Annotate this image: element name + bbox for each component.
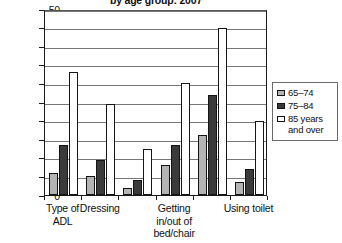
legend-item-label: 75–84 [288, 100, 334, 111]
bar-chart: by age group: 2007 05101520253035404550 … [0, 0, 342, 243]
legend-item-label: 85 yearsand over [288, 113, 334, 135]
bar [235, 182, 244, 195]
x-axis-tick-mark [118, 196, 119, 200]
bar-group [231, 11, 268, 195]
legend-item-label-line2: and over [288, 124, 334, 135]
x-axis-tick-mark [156, 196, 157, 200]
legend-item-label: 65–74 [288, 87, 334, 98]
x-axis-label: Gettingin/out ofbed/chair [143, 202, 205, 240]
bar [69, 72, 78, 195]
bar [123, 188, 132, 195]
bar [59, 145, 68, 195]
bar-group [194, 11, 231, 195]
x-axis-label-line: in/out of [143, 215, 205, 228]
chart-legend: 65–7475–8485 yearsand over [272, 82, 338, 141]
x-axis-tick-mark [81, 196, 82, 200]
bar [133, 180, 142, 195]
bar-group [119, 11, 156, 195]
x-axis-label: Dressing [69, 202, 131, 215]
bar-group [157, 11, 194, 195]
bar [86, 176, 95, 195]
legend-item[interactable]: 85 yearsand over [277, 113, 334, 135]
x-axis-label-line: ADL [32, 215, 94, 228]
bar [171, 145, 180, 195]
x-axis-label-line: bed/chair [143, 227, 205, 240]
plot-area [44, 10, 267, 196]
bar [106, 104, 115, 195]
legend-item[interactable]: 75–84 [277, 100, 334, 111]
x-axis-label: Using toilet [217, 202, 279, 215]
bar [218, 28, 227, 195]
legend-swatch-icon [277, 116, 285, 122]
x-axis-tick-mark [267, 196, 268, 200]
legend-swatch-icon [277, 90, 285, 96]
bar [49, 173, 58, 195]
bar [208, 95, 217, 195]
legend-swatch-icon [277, 103, 285, 109]
bar [143, 149, 152, 196]
bar [161, 165, 170, 195]
x-axis-tick-mark [44, 196, 45, 200]
x-axis-tick-mark [230, 196, 231, 200]
bar-group [45, 11, 82, 195]
bar [96, 160, 105, 195]
x-axis-label-line: Using toilet [217, 202, 279, 215]
chart-title: by age group: 2007 [44, 0, 268, 6]
bar-group [82, 11, 119, 195]
bar [198, 135, 207, 195]
bar [181, 83, 190, 195]
bar [255, 121, 264, 195]
x-axis-label-line: Dressing [69, 202, 131, 215]
x-axis-tick-mark [193, 196, 194, 200]
bar [245, 169, 254, 195]
x-axis-label-line: Getting [143, 202, 205, 215]
legend-item[interactable]: 65–74 [277, 87, 334, 98]
